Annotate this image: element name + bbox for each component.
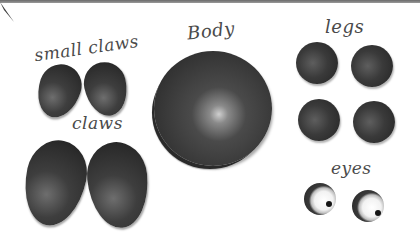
top-border-strip [0, 0, 420, 3]
body-piece [154, 51, 272, 166]
label-small-claws: small claws [33, 31, 140, 65]
eye-right [352, 190, 384, 222]
leg-top-left [296, 42, 338, 84]
leg-top-right [351, 45, 393, 87]
label-legs: legs [325, 16, 364, 37]
claw-left [17, 135, 94, 232]
eye-left-pupil [326, 201, 332, 207]
eye-left [304, 183, 336, 215]
claw-right [84, 139, 153, 231]
label-body: Body [186, 18, 236, 44]
label-eyes: eyes [331, 158, 371, 178]
eye-right-pupil [375, 210, 381, 216]
leg-bottom-left [298, 99, 340, 141]
small-claw-right [80, 58, 132, 120]
label-claws: claws [72, 113, 123, 133]
corner-arrow-icon [0, 2, 16, 24]
leg-bottom-right [353, 101, 395, 143]
